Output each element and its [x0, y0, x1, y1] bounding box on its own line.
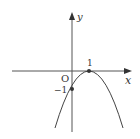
origin-label: O: [61, 73, 69, 84]
y-intercept-point: [70, 87, 74, 91]
x-tick-label-1: 1: [87, 58, 93, 68]
vertex-point: [87, 69, 91, 73]
y-axis-arrow-icon: [69, 12, 75, 20]
parabola-diagram: y x O 1 −1: [0, 0, 140, 139]
y-axis-label: y: [76, 11, 83, 22]
x-axis-label: x: [125, 74, 132, 87]
y-tick-label-neg1: −1: [54, 85, 67, 95]
